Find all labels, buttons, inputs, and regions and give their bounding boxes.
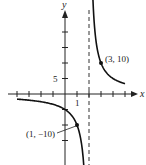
y-axis: y 5 [53, 0, 68, 165]
x-axis-arrow-icon [131, 91, 138, 97]
annotation-3-10: (3, 10) [105, 54, 129, 64]
y-tick-label-5: 5 [53, 74, 58, 84]
x-tick-label-1: 1 [75, 98, 80, 108]
curve-right-branch [93, 0, 125, 84]
x-axis-label: x [139, 88, 145, 99]
y-axis-label: y [61, 0, 67, 10]
point-3-10 [99, 61, 103, 65]
annotation-leader-line [57, 126, 76, 133]
x-axis: x 1 [8, 88, 145, 108]
y-axis-arrow-icon [62, 10, 68, 18]
annotation-1-neg10: (1, −10) [26, 129, 55, 139]
function-graph: x 1 y 5 (3, 10) (1, −10) [0, 0, 146, 165]
